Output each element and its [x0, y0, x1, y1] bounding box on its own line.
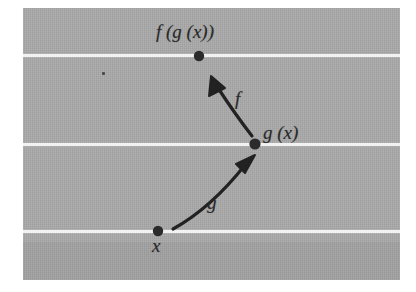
label-source-point: x: [152, 236, 160, 255]
label-composite-point: f (g (x)): [156, 22, 214, 41]
diagram-panel: f (g (x)) g (x) x f g: [23, 8, 400, 280]
label-arrow-g: g: [207, 193, 217, 212]
arrows-and-points-overlay: [23, 8, 400, 280]
label-arrow-f: f: [235, 89, 240, 108]
arrow-f: [209, 76, 252, 136]
point-gx-dot: [249, 138, 260, 149]
figure-root: f (g (x)) g (x) x f g: [0, 0, 416, 292]
label-intermediate-point: g (x): [263, 123, 298, 142]
point-fgx-dot: [194, 51, 204, 61]
